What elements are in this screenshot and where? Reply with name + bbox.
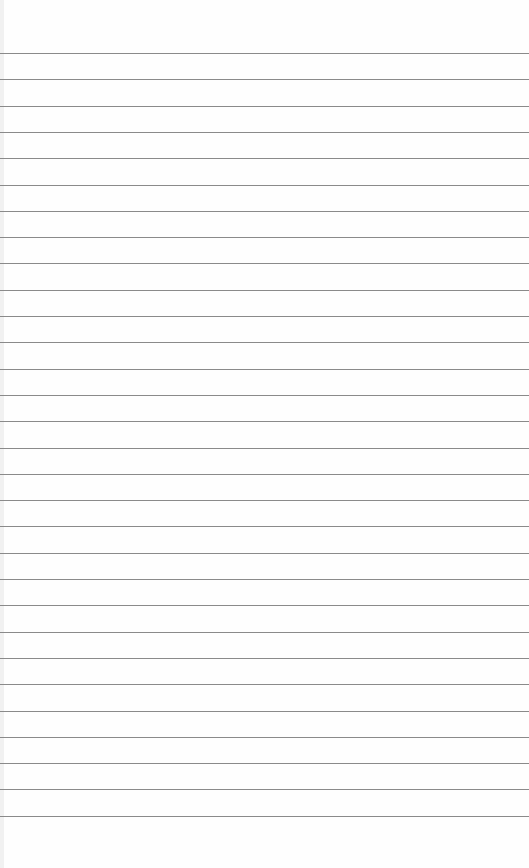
ruled-line xyxy=(0,263,529,264)
ruled-line xyxy=(0,711,529,712)
ruled-line xyxy=(0,763,529,764)
ruled-line xyxy=(0,579,529,580)
ruled-line xyxy=(0,342,529,343)
ruled-line xyxy=(0,737,529,738)
ruled-line xyxy=(0,684,529,685)
ruled-line xyxy=(0,789,529,790)
ruled-line xyxy=(0,395,529,396)
ruled-line xyxy=(0,658,529,659)
ruled-line xyxy=(0,474,529,475)
ruled-line xyxy=(0,237,529,238)
ruled-line xyxy=(0,316,529,317)
ruled-line xyxy=(0,605,529,606)
ruled-line xyxy=(0,211,529,212)
ruled-line xyxy=(0,500,529,501)
ruled-line xyxy=(0,632,529,633)
ruled-line xyxy=(0,448,529,449)
ruled-line xyxy=(0,421,529,422)
ruled-line xyxy=(0,158,529,159)
ruled-line xyxy=(0,185,529,186)
ruled-line xyxy=(0,290,529,291)
ruled-line xyxy=(0,79,529,80)
ruled-line xyxy=(0,132,529,133)
lined-paper xyxy=(0,0,529,868)
ruled-line xyxy=(0,53,529,54)
ruled-line xyxy=(0,106,529,107)
ruled-line xyxy=(0,816,529,817)
ruled-line xyxy=(0,553,529,554)
ruled-line xyxy=(0,369,529,370)
ruled-line xyxy=(0,526,529,527)
